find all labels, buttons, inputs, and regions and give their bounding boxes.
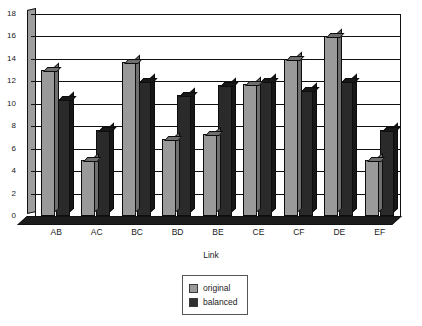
bar-face [204, 135, 216, 215]
bar-original-de [324, 36, 338, 216]
x-axis-tick-label: CE [238, 228, 278, 237]
bar-side-face [150, 74, 155, 213]
bar-group [360, 14, 400, 216]
bar-side-face [231, 77, 236, 213]
bar-original-ac [81, 160, 95, 216]
bar-side-face [109, 122, 114, 213]
bar-group [36, 14, 76, 216]
bar-top-cap [98, 127, 117, 132]
legend: original balanced [182, 275, 248, 315]
x-axis-3d-floor [17, 216, 402, 225]
bar-group [319, 14, 359, 216]
bar-face [163, 140, 175, 215]
bar-side-face [69, 92, 74, 213]
bar-chart: 024681012141618 ABACBCBDBECECFDEEF Link … [0, 0, 422, 326]
bar-side-face [337, 29, 342, 213]
legend-swatch-original-icon [189, 284, 198, 293]
y-axis-tick-label: 2 [0, 190, 16, 198]
legend-item-balanced: balanced [189, 295, 238, 309]
y-axis-tick-label: 6 [0, 145, 16, 153]
legend-item-original: original [189, 281, 238, 295]
bar-face [244, 85, 256, 215]
bar-side-face [54, 63, 59, 213]
bar-original-ab [41, 70, 55, 216]
bar-original-bd [162, 139, 176, 216]
y-axis-tick-label: 12 [0, 77, 16, 85]
bar-group [279, 14, 319, 216]
y-axis-tick-label: 0 [0, 212, 16, 220]
bar-top-cap [179, 92, 198, 97]
bar-side-face [216, 127, 221, 213]
bar-group [238, 14, 278, 216]
bar-face [42, 71, 54, 215]
bar-side-face [256, 76, 261, 213]
bar-side-face [190, 87, 195, 213]
y-axis-tick-label: 8 [0, 122, 16, 130]
bars-layer [36, 14, 400, 216]
bar-face [285, 60, 297, 215]
x-axis-title: Link [0, 250, 422, 260]
bar-side-face [135, 55, 140, 213]
bar-side-face [393, 122, 398, 213]
bar-original-bc [122, 62, 136, 216]
legend-swatch-balanced-icon [189, 298, 198, 307]
bar-face [325, 37, 337, 215]
bar-side-face [352, 74, 357, 213]
bar-group [157, 14, 197, 216]
x-axis-tick-label: BC [117, 228, 157, 237]
x-axis-tick-label: BD [158, 228, 198, 237]
legend-label-original: original [203, 284, 230, 293]
bar-side-face [175, 131, 180, 213]
x-axis-tick-label: DE [319, 228, 359, 237]
y-axis-tick-label: 18 [0, 10, 16, 18]
y-axis-tick-label: 14 [0, 55, 16, 63]
y-axis-tick-label: 10 [0, 100, 16, 108]
bar-group [76, 14, 116, 216]
bar-face [366, 161, 378, 215]
bar-face [259, 82, 271, 215]
bar-group [117, 14, 157, 216]
x-axis-tick-label: EF [360, 228, 400, 237]
x-axis-tick-label: AB [36, 228, 76, 237]
bar-side-face [271, 74, 276, 213]
bar-face [123, 63, 135, 215]
bar-face [178, 96, 190, 215]
x-axis-tick-label: AC [77, 228, 117, 237]
bar-face [82, 161, 94, 215]
y-axis-tick-label: 4 [0, 167, 16, 175]
bar-original-ef [365, 160, 379, 216]
bar-group [198, 14, 238, 216]
bar-side-face [297, 51, 302, 213]
x-axis-tick-label: BE [198, 228, 238, 237]
bar-original-ce [243, 84, 257, 216]
bar-original-cf [284, 59, 298, 216]
bar-original-be [203, 134, 217, 216]
legend-label-balanced: balanced [203, 298, 238, 307]
bar-side-face [312, 83, 317, 213]
x-axis-tick-label: CF [279, 228, 319, 237]
y-axis-tick-label: 16 [0, 32, 16, 40]
bar-face [97, 131, 109, 215]
